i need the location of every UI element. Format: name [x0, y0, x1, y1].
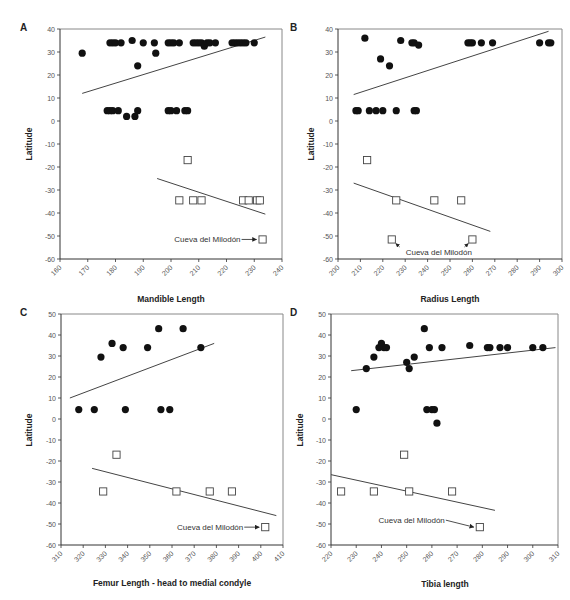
y-tick-label: 20	[48, 374, 56, 381]
x-tick-label: 410	[272, 550, 285, 563]
data-point-filled	[151, 39, 158, 46]
y-tick-label: 40	[48, 332, 56, 339]
data-point-open	[113, 451, 120, 458]
trendline	[354, 31, 549, 94]
data-point-open	[184, 157, 191, 164]
x-tick-label: 320	[73, 550, 86, 563]
annotation-cueva-del-milodon: Cueva del Milodón	[177, 523, 243, 532]
data-point-filled	[413, 107, 420, 114]
data-point-filled	[140, 39, 147, 46]
data-point-open	[337, 488, 344, 495]
x-axis-label-c: Femur Length - head to medial condyle	[93, 578, 251, 588]
y-tick-label: -40	[46, 500, 56, 507]
y-tick-label: -20	[316, 458, 326, 465]
data-point-open	[393, 197, 400, 204]
data-point-filled	[117, 39, 124, 46]
data-point-filled	[386, 62, 393, 69]
x-tick-label: 220	[216, 264, 229, 277]
data-point-open	[406, 488, 413, 495]
y-tick-label: -10	[316, 437, 326, 444]
x-tick-label: 210	[350, 264, 363, 277]
y-tick-label: -60	[45, 256, 55, 263]
x-tick-label: 210	[188, 264, 201, 277]
y-tick-label: 10	[47, 95, 55, 102]
data-point-filled	[122, 406, 129, 413]
y-tick-label: -20	[45, 164, 55, 171]
x-tick-label: 200	[327, 264, 340, 277]
data-point-filled	[478, 39, 485, 46]
data-point-open	[176, 197, 183, 204]
data-point-open	[401, 451, 408, 458]
y-tick-label: -40	[45, 210, 55, 217]
y-tick-label: -30	[323, 187, 333, 194]
data-point-filled	[372, 107, 379, 114]
y-tick-label: -50	[323, 233, 333, 240]
annotation-cueva-del-milodon: Cueva del Milodón	[406, 248, 472, 257]
panel-a: 403020100-10-20-30-40-50-601601701801902…	[45, 26, 285, 277]
x-tick-label: 230	[346, 550, 359, 563]
data-point-filled	[536, 39, 543, 46]
data-point-filled	[433, 420, 440, 427]
panel-b: 403020100-10-20-30-40-50-602002102202302…	[323, 26, 565, 277]
data-point-filled	[144, 344, 151, 351]
data-point-open	[262, 524, 269, 531]
y-tick-label: 20	[318, 374, 326, 381]
data-point-filled	[176, 39, 183, 46]
y-tick-label: 50	[48, 311, 56, 318]
y-tick-label: -50	[316, 521, 326, 528]
y-tick-label: -40	[323, 210, 333, 217]
data-point-filled	[529, 344, 536, 351]
y-axis-label-b: Latitude	[306, 127, 316, 160]
data-point-filled	[383, 344, 390, 351]
panel-label-b: B	[290, 22, 297, 33]
data-point-filled	[397, 37, 404, 44]
data-point-filled	[134, 62, 141, 69]
x-tick-label: 310	[547, 550, 560, 563]
y-tick-label: 30	[48, 353, 56, 360]
y-tick-label: 30	[47, 49, 55, 56]
data-point-filled	[184, 107, 191, 114]
data-point-filled	[466, 342, 473, 349]
y-tick-label: 30	[325, 49, 333, 56]
x-axis-label-d: Tibia length	[421, 579, 469, 589]
x-axis-label-b: Radius Length	[420, 294, 479, 304]
data-point-open	[469, 236, 476, 243]
y-tick-label: -60	[323, 256, 333, 263]
data-point-filled	[173, 107, 180, 114]
y-tick-label: -10	[46, 437, 56, 444]
data-point-open	[190, 197, 197, 204]
trendline	[92, 468, 276, 515]
x-tick-label: 180	[105, 264, 118, 277]
data-point-filled	[166, 406, 173, 413]
y-tick-label: 10	[318, 395, 326, 402]
data-point-open	[173, 488, 180, 495]
y-tick-label: -30	[45, 187, 55, 194]
x-axis-label-a: Mandible Length	[137, 294, 205, 304]
y-tick-label: -30	[316, 479, 326, 486]
data-point-filled	[426, 344, 433, 351]
y-tick-label: 50	[318, 311, 326, 318]
data-point-open	[259, 236, 266, 243]
y-tick-label: -30	[46, 479, 56, 486]
plot-layer: 403020100-10-20-30-40-50-601601701801902…	[45, 26, 565, 563]
data-point-filled	[134, 107, 141, 114]
y-tick-label: 0	[322, 416, 326, 423]
x-tick-label: 340	[117, 550, 130, 563]
x-tick-label: 260	[421, 550, 434, 563]
x-tick-label: 360	[161, 550, 174, 563]
data-point-filled	[157, 406, 164, 413]
data-point-filled	[370, 353, 377, 360]
x-tick-label: 170	[77, 264, 90, 277]
data-point-filled	[431, 406, 438, 413]
data-point-filled	[152, 50, 159, 57]
data-point-open	[100, 488, 107, 495]
y-tick-label: -10	[323, 141, 333, 148]
data-point-filled	[97, 353, 104, 360]
data-point-filled	[438, 344, 445, 351]
y-tick-label: 0	[51, 118, 55, 125]
x-tick-label: 350	[139, 550, 152, 563]
data-point-filled	[242, 39, 249, 46]
y-tick-label: 40	[47, 26, 55, 33]
data-point-open	[476, 524, 483, 531]
data-point-filled	[366, 107, 373, 114]
